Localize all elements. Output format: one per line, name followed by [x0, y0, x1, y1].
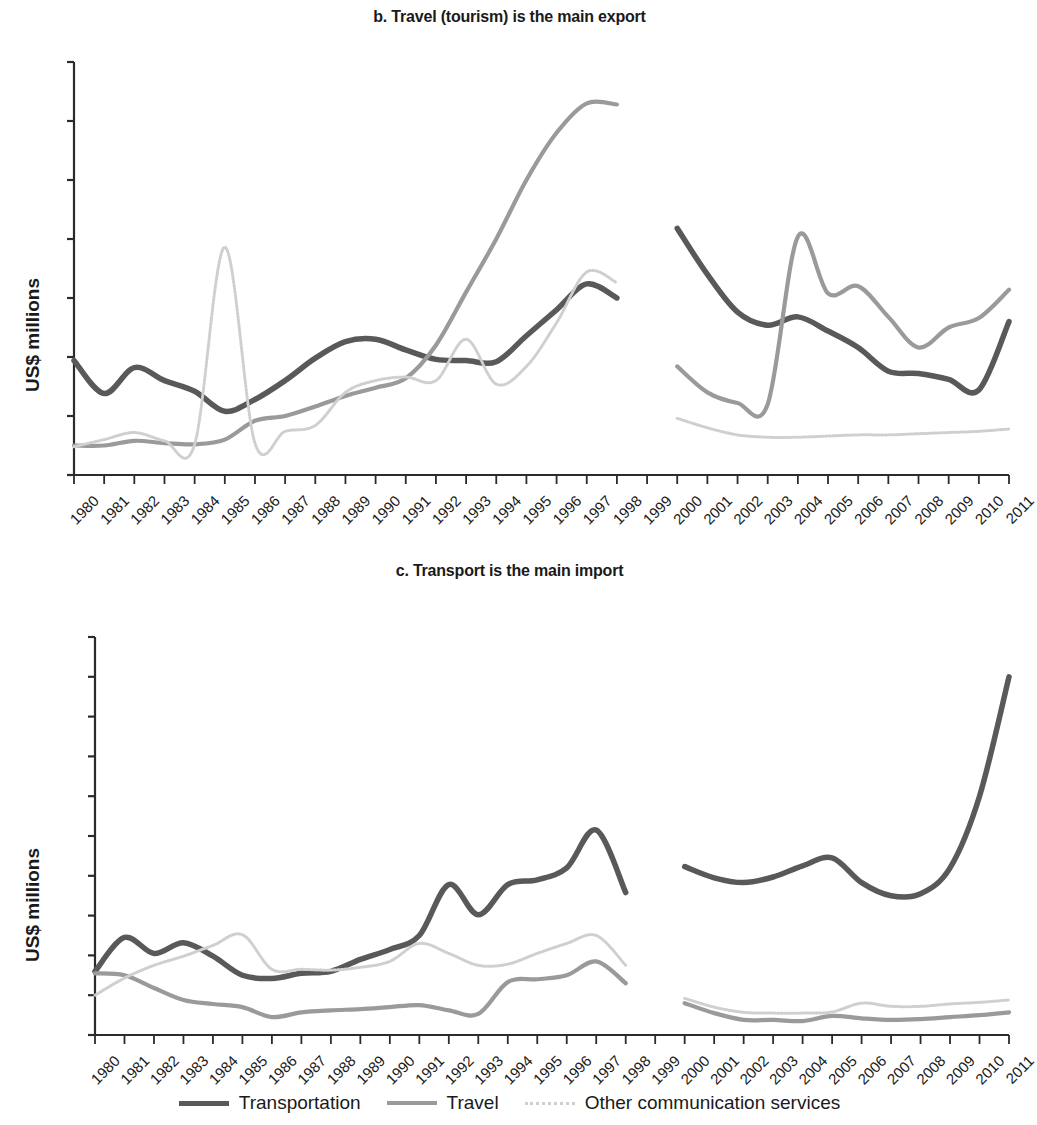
data-series-line [95, 830, 626, 979]
legend-item[interactable]: Other communication services [525, 1092, 841, 1114]
chart-legend: TransportationTravelOther communication … [0, 1092, 1019, 1114]
data-series-line [74, 101, 617, 445]
data-series-line [685, 677, 1009, 897]
legend-label: Other communication services [585, 1092, 841, 1114]
data-series-line [677, 418, 1009, 437]
data-series-line [685, 998, 1009, 1013]
axis-lines [95, 637, 1009, 1035]
legend-item[interactable]: Transportation [179, 1092, 361, 1114]
data-series-line [74, 247, 617, 458]
data-series-line [677, 228, 1009, 393]
chart-panel-transport-import: c. Transport is the main import US$ mill… [0, 562, 1019, 1062]
legend-line-swatch [179, 1101, 229, 1106]
data-series-line [95, 961, 626, 1017]
legend-line-swatch [525, 1102, 575, 1105]
legend-item[interactable]: Travel [387, 1092, 499, 1114]
legend-label: Travel [447, 1092, 499, 1114]
chart-svg [0, 0, 1019, 490]
legend-label: Transportation [239, 1092, 361, 1114]
legend-line-swatch [387, 1101, 437, 1105]
chart-svg [0, 562, 1019, 1050]
chart-panel-travel-export: b. Travel (tourism) is the main export U… [0, 0, 1019, 560]
axis-lines [74, 62, 1009, 475]
